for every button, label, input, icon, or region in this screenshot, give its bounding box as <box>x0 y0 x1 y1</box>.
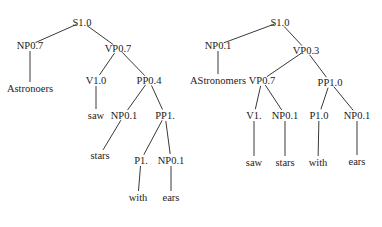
parse-tree-diagram: S1.0NP0.7VP0.7AstronoersV1.0PP0.4sawNP0.… <box>0 0 382 227</box>
tree-edge <box>310 55 327 77</box>
tree-node-label: PP1. <box>155 110 175 121</box>
tree-leaf-word: ears <box>349 156 366 167</box>
tree-node-label: NP0.1 <box>158 155 185 166</box>
tree-node-label: P1.0 <box>310 110 329 121</box>
tree-node-label: VP0.3 <box>293 45 320 56</box>
tree-leaf-word: AStronomers <box>190 75 246 86</box>
tree-node-label: P1. <box>134 155 148 166</box>
tree-edge <box>166 121 170 154</box>
tree-edge <box>127 85 145 110</box>
tree-node-label: S1.0 <box>73 17 92 28</box>
tree-leaf-word: with <box>309 157 328 168</box>
tree-leaf-word: stars <box>90 150 109 161</box>
tree-edge <box>284 26 302 45</box>
tree-edge <box>99 53 114 75</box>
tree-node-label: NP0.1 <box>272 110 299 121</box>
tree-edge <box>144 120 162 154</box>
tree-node-label: S1.0 <box>271 17 290 28</box>
tree-node-label: VP0.7 <box>249 75 276 86</box>
tree-leaf-word: with <box>129 192 148 203</box>
tree-node-label: VP0.7 <box>105 43 132 54</box>
tree-edge <box>318 121 319 156</box>
tree-node-label: NP0.1 <box>111 110 138 121</box>
tree-leaf-word: saw <box>246 157 263 168</box>
tree-leaf-word: ears <box>163 192 180 203</box>
tree-edge <box>334 87 353 111</box>
tree-node-label: V1.0 <box>86 75 107 86</box>
tree-edge <box>255 86 260 109</box>
tree-node-label: PP1.0 <box>318 77 343 88</box>
tree-edge <box>151 85 162 109</box>
tree-leaf-word: Astronoers <box>7 83 53 94</box>
tree-edge <box>122 52 145 75</box>
tree-edge <box>138 166 140 191</box>
tree-edge <box>321 88 328 110</box>
tree-leaf-word: saw <box>88 110 105 121</box>
tree-node-label: NP0.1 <box>205 40 232 51</box>
tree-node-label: NP0.7 <box>17 40 44 51</box>
tree-edge <box>265 85 281 110</box>
tree-edge <box>267 53 301 76</box>
tree-leaf-word: stars <box>275 157 294 168</box>
tree-node-label: NP0.1 <box>344 110 371 121</box>
tree-node-label: V1. <box>246 110 261 121</box>
tree-node-label: PP0.4 <box>137 75 163 86</box>
tree-edge <box>103 120 121 150</box>
left-parse-tree: S1.0NP0.7VP0.7AstronoersV1.0PP0.4sawNP0.… <box>7 17 184 203</box>
right-parse-tree: S1.0NP0.1VP0.3AStronomersVP0.7PP1.0V1.NP… <box>190 17 370 168</box>
